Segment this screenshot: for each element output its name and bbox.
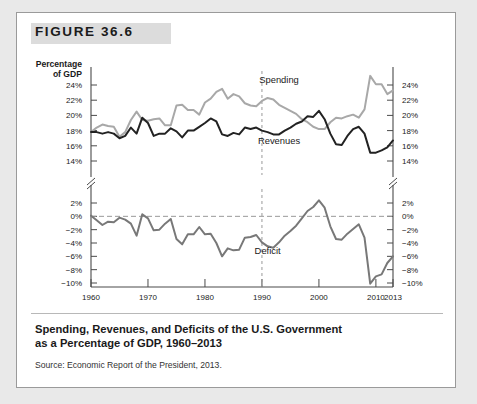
x-tick-label-3: 1990 — [253, 293, 271, 302]
figure-caption-area: Spending, Revenues, and Deficits of the … — [31, 313, 443, 380]
x-tick-label-4: 2000 — [310, 293, 328, 302]
figure-caption: Spending, Revenues, and Deficits of the … — [35, 322, 435, 350]
y-tick-label-lower-left-1: 0% — [70, 212, 82, 221]
x-tick-label-0: 1960 — [82, 293, 100, 302]
chart-svg: 24%24%22%22%20%20%18%18%16%16%14%14%2%2%… — [31, 53, 443, 306]
y-tick-label-upper-left-5: 14% — [66, 157, 82, 166]
y-tick-label-upper-right-4: 16% — [402, 142, 418, 151]
y-tick-label-lower-left-4: −6% — [66, 252, 82, 261]
y-tick-label-upper-left-3: 18% — [66, 127, 82, 136]
x-tick-label-5: 2010 — [367, 293, 385, 302]
chart-plot-area: 24%24%22%22%20%20%18%18%16%16%14%14%2%2%… — [31, 53, 443, 306]
figure-label: FIGURE 36.6 — [35, 24, 134, 39]
y-tick-label-lower-left-5: −8% — [66, 266, 82, 275]
y-tick-label-upper-left-0: 24% — [66, 81, 82, 90]
y-tick-label-lower-right-6: −10% — [402, 279, 423, 288]
y-tick-label-upper-right-5: 14% — [402, 157, 418, 166]
series-annotation-spending: Spending — [259, 74, 299, 85]
x-tick-label-2: 1980 — [196, 293, 214, 302]
caption-line-2: as a Percentage of GDP, 1960–2013 — [35, 337, 222, 349]
y-axis-title-line1: Percentage — [36, 59, 83, 69]
y-tick-label-upper-right-1: 22% — [402, 96, 418, 105]
y-tick-label-lower-left-6: −10% — [61, 279, 82, 288]
y-tick-label-lower-right-5: −8% — [402, 266, 418, 275]
series-line-spending — [91, 76, 393, 137]
y-tick-label-upper-right-3: 18% — [402, 127, 418, 136]
axis-break-mark-right — [389, 178, 397, 185]
y-tick-label-upper-left-2: 20% — [66, 111, 82, 120]
x-tick-label-6: 2013 — [384, 293, 402, 302]
y-tick-label-lower-left-0: 2% — [70, 199, 82, 208]
figure-source: Source: Economic Report of the President… — [35, 360, 222, 370]
y-tick-label-upper-right-0: 24% — [402, 81, 418, 90]
y-tick-label-lower-right-1: 0% — [402, 212, 414, 221]
x-axis-title: Year — [373, 305, 392, 306]
y-axis-title-line2: of GDP — [53, 69, 82, 79]
y-tick-label-lower-left-2: −2% — [66, 226, 82, 235]
y-tick-label-lower-right-3: −4% — [402, 239, 418, 248]
series-line-deficit — [91, 200, 393, 283]
caption-line-1: Spending, Revenues, and Deficits of the … — [35, 323, 342, 335]
y-tick-label-lower-right-0: 2% — [402, 199, 414, 208]
y-tick-label-upper-left-4: 16% — [66, 142, 82, 151]
y-tick-label-lower-right-4: −6% — [402, 252, 418, 261]
series-annotation-revenues: Revenues — [258, 135, 301, 146]
y-tick-label-upper-left-1: 22% — [66, 96, 82, 105]
x-tick-label-1: 1970 — [139, 293, 157, 302]
axis-break-mark-left — [87, 178, 95, 185]
y-tick-label-lower-right-2: −2% — [402, 226, 418, 235]
y-tick-label-upper-right-2: 20% — [402, 111, 418, 120]
y-tick-label-lower-left-3: −4% — [66, 239, 82, 248]
figure-card: FIGURE 36.6 24%24%22%22%20%20%18%18%16%1… — [16, 12, 456, 388]
figure-header: FIGURE 36.6 — [17, 13, 455, 53]
series-annotation-deficit: Deficit — [255, 245, 281, 256]
